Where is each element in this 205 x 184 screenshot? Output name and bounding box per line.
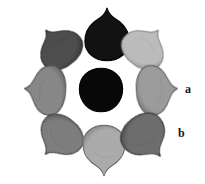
panel-label-b: b (178, 127, 185, 139)
seed-outline (23, 64, 68, 117)
specimen-plate-figure: a b (0, 0, 205, 184)
seed-specimen-center (78, 67, 124, 113)
seed-outline (79, 68, 122, 112)
panel-label-a: a (185, 83, 191, 95)
